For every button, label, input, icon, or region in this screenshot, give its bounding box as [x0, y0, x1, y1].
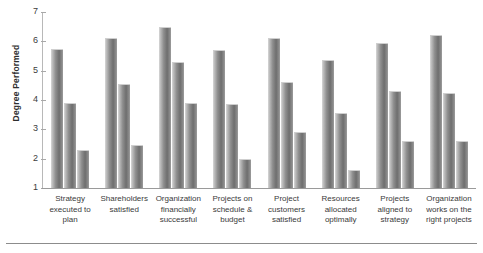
category-axis-labels: Strategyexecuted toplanShareholderssatis… [43, 194, 476, 226]
bar-group [151, 12, 205, 188]
footer-divider [6, 243, 477, 244]
bar [348, 170, 360, 188]
category-label: Projectsaligned tostrategy [368, 194, 422, 226]
bar-group [368, 12, 422, 188]
bar [159, 27, 171, 188]
category-label-line: optimally [315, 215, 367, 226]
category-label-line: plan [44, 215, 96, 226]
category-label: Resourcesallocatedoptimally [314, 194, 368, 226]
bar-group [43, 12, 97, 188]
y-tick-label: 2 [18, 153, 38, 164]
category-label-line: Shareholders [98, 194, 150, 205]
bar [335, 113, 347, 188]
category-label: Strategyexecuted toplan [43, 194, 97, 226]
category-label-line: right projects [423, 215, 475, 226]
bar [213, 50, 225, 188]
bar-group [260, 12, 314, 188]
bar [402, 141, 414, 188]
category-label-line: aligned to [369, 205, 421, 216]
bar [322, 60, 334, 188]
bar [77, 150, 89, 188]
bar [239, 159, 251, 188]
bar-groups [43, 12, 476, 188]
category-label-line: satisfied [98, 205, 150, 216]
category-label-line: Resources [315, 194, 367, 205]
bar [172, 62, 184, 188]
y-tick-label: 5 [18, 65, 38, 76]
bar [281, 82, 293, 188]
category-label-line: allocated [315, 205, 367, 216]
category-label: Projects onschedule &budget [205, 194, 259, 226]
category-label-line: Projects on [206, 194, 258, 205]
y-tick-label: 6 [18, 35, 38, 46]
bar-chart: Degree Performed 1234567 Strategyexecute… [0, 0, 483, 253]
bar-group [205, 12, 259, 188]
category-label-line: Projects [369, 194, 421, 205]
bar-group [422, 12, 476, 188]
category-label-line: successful [152, 215, 204, 226]
category-label-line: Organization [423, 194, 475, 205]
bar [131, 145, 143, 188]
bar [294, 132, 306, 188]
category-label: Projectcustomerssatisfied [260, 194, 314, 226]
bar [64, 103, 76, 188]
category-label-line: works on the [423, 205, 475, 216]
plot-area: 1234567 [42, 12, 476, 188]
bar [51, 49, 63, 188]
category-label-line: schedule & [206, 205, 258, 216]
bar [268, 38, 280, 188]
bar [389, 91, 401, 188]
category-label-line: executed to [44, 205, 96, 216]
bar [118, 84, 130, 188]
category-label: Shareholderssatisfied [97, 194, 151, 226]
category-label-line: strategy [369, 215, 421, 226]
bar [456, 141, 468, 188]
y-tick-label: 4 [18, 94, 38, 105]
category-label-line: customers [261, 205, 313, 216]
category-label-line: financially [152, 205, 204, 216]
bar [105, 38, 117, 188]
bar [376, 43, 388, 188]
y-tick-label: 7 [18, 6, 38, 17]
bar [226, 104, 238, 188]
category-label-line: satisfied [261, 215, 313, 226]
bar [430, 35, 442, 188]
x-axis-line [42, 188, 476, 189]
bar [185, 103, 197, 188]
y-tick-label: 1 [18, 182, 38, 193]
bar [443, 93, 455, 188]
bar-group [314, 12, 368, 188]
category-label: Organizationfinanciallysuccessful [151, 194, 205, 226]
category-label-line: Organization [152, 194, 204, 205]
y-tick-label: 3 [18, 123, 38, 134]
category-label-line: Project [261, 194, 313, 205]
category-label: Organizationworks on theright projects [422, 194, 476, 226]
category-label-line: budget [206, 215, 258, 226]
category-label-line: Strategy [44, 194, 96, 205]
bar-group [97, 12, 151, 188]
